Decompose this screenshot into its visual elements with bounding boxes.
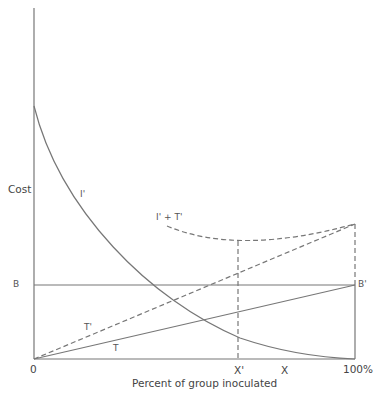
curve-sum [167,224,355,241]
label-sum: I' + T' [156,212,182,222]
x-axis-label: Percent of group inoculated [132,377,277,389]
tick-x-prime: X' [234,364,244,376]
line-t-prime [34,224,355,359]
label-t-prime: T' [84,322,92,332]
tick-hundred: 100% [343,363,373,375]
chart-canvas [0,0,376,395]
label-i-prime: I' [80,189,85,199]
line-t [34,285,355,359]
curve-i-prime [34,106,355,359]
y-axis-label: Cost [8,183,31,195]
label-t: T [113,343,119,353]
label-b-prime: B' [358,279,367,289]
tick-b: B [13,279,19,289]
tick-origin: 0 [30,363,37,375]
tick-x: X [281,364,288,376]
